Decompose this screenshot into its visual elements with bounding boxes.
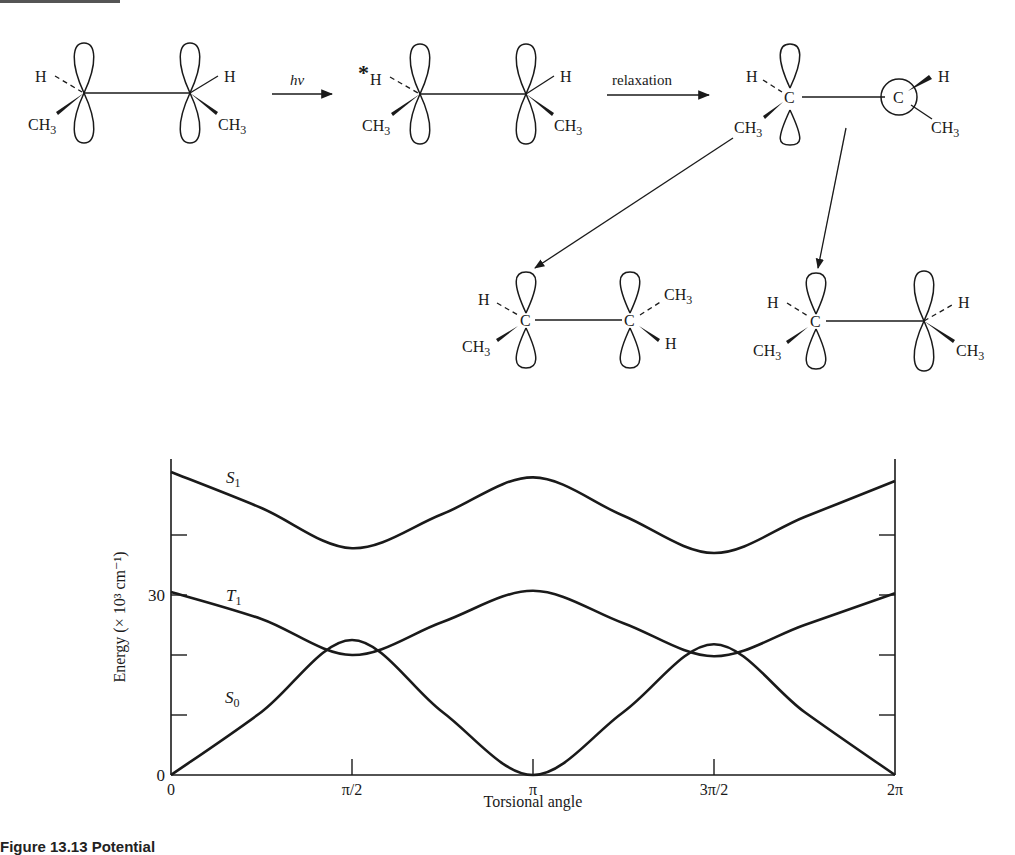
y-tick-label: 0 <box>157 766 166 785</box>
branch-arrow-trans <box>818 128 846 268</box>
svg-text:H: H <box>746 68 758 85</box>
svg-text:H: H <box>767 294 779 311</box>
arrow-label: relaxation <box>612 72 672 88</box>
curve-s0 <box>171 640 895 775</box>
atom-label: H <box>35 68 47 85</box>
svg-text:H: H <box>938 68 950 85</box>
y-tick-label: 30 <box>148 586 165 605</box>
x-axis-title: Torsional angle <box>484 793 583 811</box>
axis-labels: 0π/2π3π/22π030Torsional angleEnergy (× 1… <box>111 468 903 811</box>
svg-text:CH3: CH3 <box>753 342 781 363</box>
energy-curves <box>171 472 895 775</box>
x-tick-label: π/2 <box>342 781 363 798</box>
svg-text:CH3: CH3 <box>956 342 984 363</box>
x-tick-label: 2π <box>887 781 903 798</box>
branch-arrow-cis <box>535 138 733 268</box>
energy-chart: 0π/2π3π/22π030Torsional angleEnergy (× 1… <box>111 459 903 811</box>
figure-caption: Figure 13.13 Potential <box>0 838 155 855</box>
x-tick-label: 0 <box>167 781 175 798</box>
svg-text:C: C <box>624 312 635 329</box>
arrow-label: hν <box>290 72 305 88</box>
svg-text:CH3: CH3 <box>931 119 959 140</box>
svg-text:CH3: CH3 <box>362 117 390 138</box>
svg-text:CH3: CH3 <box>734 119 762 140</box>
twisted-molecule: H C CH3 C H CH3 <box>734 44 959 145</box>
svg-text:CH3: CH3 <box>462 338 490 359</box>
svg-text:C: C <box>784 89 795 106</box>
curve-s1 <box>171 472 895 553</box>
svg-text:H: H <box>560 68 572 85</box>
reactant-molecule: H CH3 H CH3 <box>28 43 246 143</box>
curve-t1 <box>171 591 895 656</box>
svg-text:CH3: CH3 <box>554 117 582 138</box>
series-label-t1: T1 <box>226 586 241 608</box>
svg-text:CH3: CH3 <box>664 286 692 307</box>
series-label-s1: S1 <box>226 468 241 490</box>
svg-text:H: H <box>478 291 490 308</box>
series-label-s0: S0 <box>225 688 240 710</box>
svg-text:H: H <box>665 335 677 352</box>
svg-text:C: C <box>810 313 821 330</box>
relaxation-arrow: relaxation <box>607 72 709 95</box>
axis-ticks <box>171 535 895 775</box>
excited-star-icon: * <box>358 60 369 85</box>
atom-label: H <box>224 68 236 85</box>
y-axis-title: Energy (× 10³ cm⁻¹) <box>111 551 129 682</box>
svg-text:C: C <box>520 312 531 329</box>
svg-text:C: C <box>893 89 904 106</box>
excited-molecule: * H CH3 H CH3 <box>358 44 582 144</box>
atom-label: CH3 <box>218 116 246 137</box>
product-molecule-1: H C CH3 C CH3 H <box>462 272 692 368</box>
product-molecule-2: H C CH3 H CH3 <box>753 271 984 371</box>
svg-text:H: H <box>370 71 382 88</box>
x-tick-label: 3π/2 <box>700 781 729 798</box>
atom-label: CH3 <box>28 116 56 137</box>
svg-text:H: H <box>958 294 970 311</box>
photon-arrow: hν <box>272 72 332 94</box>
